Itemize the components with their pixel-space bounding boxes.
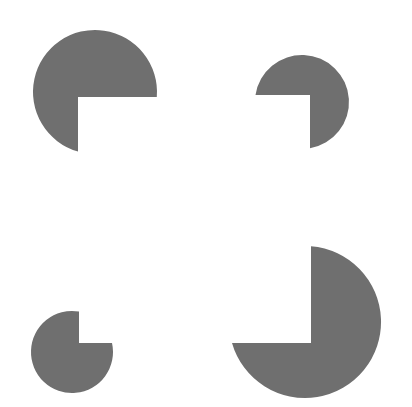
kanizsa-figure [0,0,412,407]
figure-canvas [0,0,412,407]
